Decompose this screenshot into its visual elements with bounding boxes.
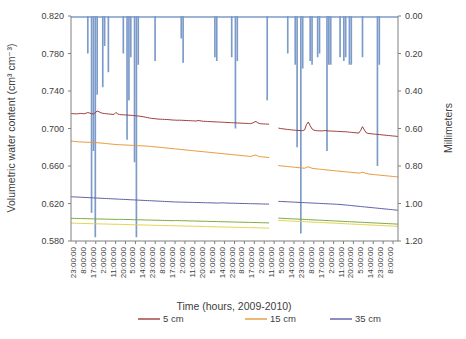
- x-axis-tick-label: 17:00:00: [168, 246, 177, 278]
- x-axis-tick-label: 23:00:00: [297, 246, 306, 278]
- precipitation-bar: [311, 16, 313, 65]
- x-axis-tick-label: 11:00:00: [267, 246, 276, 277]
- precipitation-bar: [96, 16, 98, 95]
- precipitation-bar: [300, 16, 302, 234]
- x-axis-tick-label: 2:00:00: [327, 246, 336, 273]
- x-axis-tick-label: 8:00:00: [79, 246, 88, 273]
- x-axis-tick-label: 8:00:00: [237, 246, 246, 273]
- precipitation-bar: [108, 16, 110, 72]
- precipitation-bar: [362, 16, 364, 57]
- precipitation-bar: [182, 16, 184, 63]
- chart-container: 0.5800.6200.6600.7000.7400.7800.820 0.00…: [0, 0, 466, 339]
- y-axis-right-tick-label: 1.00: [405, 199, 423, 209]
- precipitation-bar: [266, 16, 268, 100]
- x-axis-tick-label: 2:00:00: [257, 246, 266, 273]
- precipitation-bar: [122, 16, 124, 54]
- y-axis-right-tick-label: 0.20: [405, 49, 423, 59]
- x-axis-tick-label: 17:00:00: [89, 246, 98, 278]
- precipitation-bar: [214, 16, 216, 57]
- legend-label[interactable]: 15 cm: [270, 313, 296, 324]
- x-axis-tick-label: 23:00:00: [376, 246, 385, 278]
- y-axis-left-title: Volumetric water content (cm³ cm⁻³): [5, 44, 17, 213]
- x-axis-tick-label: 23:00:00: [228, 246, 237, 278]
- x-axis-tick-label: 14:00:00: [218, 246, 227, 278]
- precipitation-bar: [134, 16, 136, 162]
- y-axis-left-tick-label: 0.660: [41, 161, 64, 171]
- precipitation-bar: [102, 16, 104, 87]
- x-axis-tick-label: 17:00:00: [317, 246, 326, 278]
- precipitation-bar: [235, 16, 237, 129]
- y-axis-left-tick-label: 0.740: [41, 86, 64, 96]
- y-axis-left-tick-label: 0.780: [41, 49, 64, 59]
- y-axis-right-tick-label: 0.60: [405, 124, 423, 134]
- x-axis-tick-label: 11:00:00: [109, 246, 118, 277]
- y-axis-left-tick-label: 0.620: [41, 199, 64, 209]
- x-axis-tick-label: 20:00:00: [119, 246, 128, 278]
- precipitation-bar: [128, 16, 130, 100]
- precipitation-bar: [126, 16, 128, 140]
- x-axis-tick-label: 20:00:00: [198, 246, 207, 278]
- x-axis-tick-label: 14:00:00: [138, 246, 147, 278]
- y-axis-right-tick-label: 0.80: [405, 161, 423, 171]
- precipitation-bar: [94, 16, 96, 237]
- legend-label[interactable]: 35 cm: [355, 313, 381, 324]
- precipitation-bar: [91, 16, 93, 213]
- legend-label[interactable]: 5 cm: [163, 313, 184, 324]
- y-axis-right-ticks: 0.000.200.400.600.801.001.20: [398, 11, 423, 246]
- precipitation-bar: [343, 16, 345, 61]
- precipitation-bar: [231, 16, 233, 57]
- precipitation-bar: [154, 16, 156, 61]
- y-axis-right-tick-label: 1.20: [405, 236, 423, 246]
- soil-moisture-precipitation-chart: 0.5800.6200.6600.7000.7400.7800.820 0.00…: [0, 0, 466, 339]
- precipitation-bar: [330, 16, 332, 65]
- precipitation-bar: [350, 16, 352, 65]
- y-axis-left-tick-label: 0.580: [41, 236, 64, 246]
- y-axis-left-ticks: 0.5800.6200.6600.7000.7400.7800.820: [41, 11, 71, 246]
- y-axis-right-tick-label: 0.00: [405, 11, 423, 21]
- x-axis-tick-label: 8:00:00: [158, 246, 167, 273]
- precipitation-bar: [296, 16, 298, 147]
- precipitation-bar: [216, 16, 218, 61]
- y-axis-right-title: Millimeters: [442, 103, 454, 153]
- precipitation-bar: [339, 16, 341, 57]
- precipitation-bar: [319, 16, 321, 54]
- x-axis-title: Time (hours, 2009-2010): [176, 300, 291, 312]
- x-axis-tick-label: 8:00:00: [386, 246, 395, 273]
- precipitation-bar: [137, 16, 139, 65]
- precipitation-bar: [180, 16, 182, 39]
- y-axis-left-tick-label: 0.820: [41, 11, 64, 21]
- precipitation-bar: [294, 16, 296, 65]
- precipitation-bar: [309, 16, 311, 61]
- y-axis-left-tick-label: 0.700: [41, 124, 64, 134]
- x-axis-tick-label: 23:00:00: [69, 246, 78, 278]
- y-axis-right-tick-label: 0.40: [405, 86, 423, 96]
- precipitation-bar: [104, 16, 106, 46]
- precipitation-bar: [317, 16, 319, 57]
- x-axis-tick-label: 20:00:00: [346, 246, 355, 278]
- precipitation-bar: [349, 16, 351, 65]
- precipitation-bar: [328, 16, 330, 65]
- x-axis-tick-label: 5:00:00: [208, 246, 217, 273]
- precipitation-bar: [136, 16, 138, 237]
- precipitation-bar: [378, 16, 380, 65]
- precipitation-bar: [302, 16, 304, 69]
- x-axis-tick-label: 5:00:00: [356, 246, 365, 273]
- x-axis-tick-label: 14:00:00: [287, 246, 296, 278]
- precipitation-bar: [287, 16, 289, 54]
- x-axis-tick-label: 11:00:00: [337, 246, 346, 277]
- precipitation-bar: [377, 16, 379, 166]
- x-axis-tick-label: 2:00:00: [178, 246, 187, 273]
- x-axis-tick-label: 2:00:00: [99, 246, 108, 273]
- x-axis-tick-label: 5:00:00: [128, 246, 137, 273]
- x-axis-tick-label: 14:00:00: [366, 246, 375, 278]
- chart-legend: 5 cm15 cm35 cm: [138, 313, 381, 324]
- precipitation-bar: [130, 16, 132, 57]
- precipitation-bar: [93, 16, 95, 151]
- x-axis-ticks: 23:00:008:00:0017:00:002:00:0011:00:0020…: [69, 241, 395, 278]
- x-axis-tick-label: 8:00:00: [307, 246, 316, 273]
- x-axis-tick-label: 5:00:00: [277, 246, 286, 273]
- precipitation-bar: [236, 16, 238, 61]
- precipitation-bar: [345, 16, 347, 57]
- x-axis-tick-label: 11:00:00: [188, 246, 197, 277]
- x-axis-tick-label: 23:00:00: [148, 246, 157, 278]
